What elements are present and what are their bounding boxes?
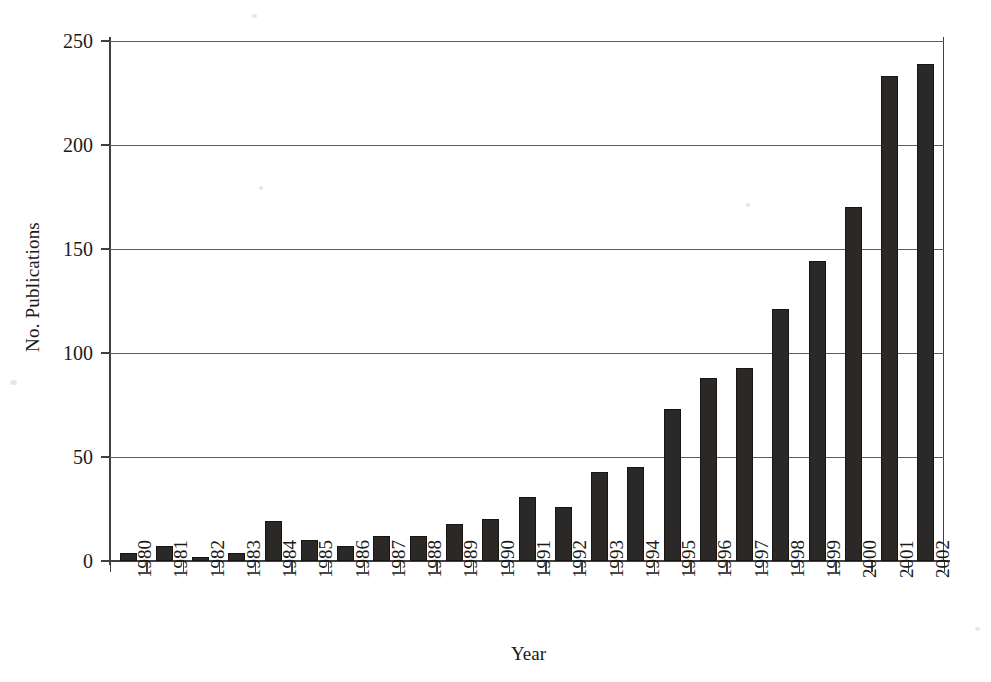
- x-axis-tick-label: 1981: [171, 540, 190, 578]
- bar: [736, 368, 753, 561]
- y-axis-tick-label: 200: [63, 135, 93, 155]
- x-axis-tick-label: 1999: [824, 540, 843, 578]
- x-axis-tick-label: 1989: [461, 540, 480, 578]
- bar: [809, 261, 826, 561]
- x-axis-tick-label: 1991: [534, 540, 553, 578]
- y-axis-tick-label: 100: [63, 343, 93, 363]
- x-axis-tick-label: 1984: [280, 540, 299, 578]
- x-axis-tick-label: 1990: [498, 540, 517, 578]
- y-axis-title: No. Publications: [22, 197, 44, 377]
- x-axis-tick-label: 1987: [389, 540, 408, 578]
- x-axis-tick-label: 1983: [244, 540, 263, 578]
- x-axis-tick-label: 2000: [860, 540, 879, 578]
- x-axis-tick-label: 1992: [570, 540, 589, 578]
- x-axis-tick-label: 1985: [316, 540, 335, 578]
- publications-per-year-bar-chart: No. Publications 050100150200250 1980198…: [0, 0, 991, 682]
- y-axis-tick: [101, 560, 110, 561]
- bar: [772, 309, 789, 561]
- x-axis-title: Year: [0, 643, 991, 665]
- y-axis-line: [109, 37, 111, 565]
- y-axis-tick: [101, 144, 110, 145]
- y-axis-tick-label: 150: [63, 239, 93, 259]
- y-axis-tick: [101, 40, 110, 41]
- x-axis-tick-label: 2001: [897, 540, 916, 578]
- bar: [845, 207, 862, 561]
- x-axis-tick-label: 1993: [607, 540, 626, 578]
- scan-speck: [259, 186, 263, 190]
- bar: [917, 64, 934, 561]
- gridline: [110, 41, 944, 42]
- x-axis-tick-label: 2002: [933, 540, 952, 578]
- scan-speck: [975, 627, 980, 631]
- scan-speck: [10, 380, 17, 385]
- y-axis-tick-label: 50: [73, 447, 93, 467]
- x-axis-tick-label: 1996: [715, 540, 734, 578]
- bar: [664, 409, 681, 561]
- x-axis-tick-label: 1986: [353, 540, 372, 578]
- plot-right-border: [943, 37, 944, 561]
- x-axis-tick-label: 1994: [643, 540, 662, 578]
- x-axis-tick-label: 1995: [679, 540, 698, 578]
- x-axis-tick-label: 1988: [425, 540, 444, 578]
- plot-area: 050100150200250 198019811982198319841985…: [110, 41, 944, 561]
- scan-speck: [746, 203, 750, 207]
- y-axis-tick: [101, 456, 110, 457]
- x-axis-title-text: Year: [511, 643, 546, 665]
- gridline: [110, 249, 944, 250]
- x-axis-tick-label: 1980: [135, 540, 154, 578]
- x-axis-tick-label: 1998: [788, 540, 807, 578]
- x-axis-tick-label: 1982: [208, 540, 227, 578]
- scan-speck: [252, 14, 257, 18]
- gridline: [110, 145, 944, 146]
- y-axis-tick-label: 250: [63, 31, 93, 51]
- bar: [881, 76, 898, 561]
- x-axis-tick: [110, 561, 111, 572]
- x-axis-tick-label: 1997: [752, 540, 771, 578]
- bar: [700, 378, 717, 561]
- y-axis-tick: [101, 248, 110, 249]
- y-axis-tick-label: 0: [83, 551, 93, 571]
- y-axis-tick: [101, 352, 110, 353]
